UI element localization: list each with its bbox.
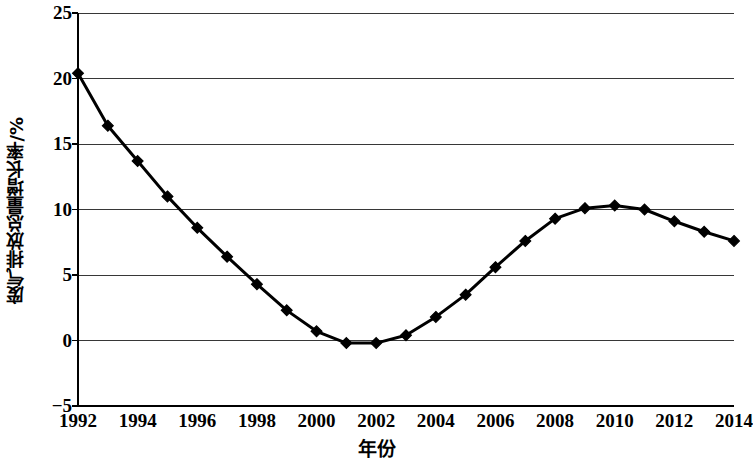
data-point-marker: 2002: -0.2 — [371, 338, 382, 349]
x-axis-tick-label: 2014 — [715, 410, 753, 432]
data-point-marker: 2013: 8.3 — [699, 226, 710, 237]
x-axis-tick-label: 1996 — [178, 410, 216, 432]
x-axis-tick-label: 1992 — [59, 410, 97, 432]
data-point-marker: 2012: 9.1 — [669, 216, 680, 227]
x-axis-title: 年份 — [0, 434, 753, 461]
x-axis-tick-label: 2000 — [298, 410, 336, 432]
data-point-marker: 2001: -0.2 — [341, 338, 352, 349]
x-axis-tick-label: 2010 — [596, 410, 634, 432]
x-axis-tick-label: 2004 — [417, 410, 455, 432]
x-axis-tick-label: 2002 — [357, 410, 395, 432]
x-axis-tick-label: 2012 — [655, 410, 693, 432]
x-axis-tick-label: 2006 — [476, 410, 514, 432]
x-axis-tick-label: 1994 — [119, 410, 157, 432]
chart-container: 废气排放总量增长率/% 2520151050−5 1992: 20.41993:… — [0, 0, 753, 464]
data-line — [78, 73, 734, 343]
x-axis-tick-label: 2008 — [536, 410, 574, 432]
x-axis-tick-label: 1998 — [238, 410, 276, 432]
data-point-marker: 2014: 7.6 — [729, 236, 740, 247]
plot-area: 1992: 20.41993: 16.41994: 13.71995: 1119… — [0, 0, 753, 464]
data-point-marker: 2009: 10.1 — [580, 203, 591, 214]
data-point-marker: 2011: 10 — [639, 204, 650, 215]
